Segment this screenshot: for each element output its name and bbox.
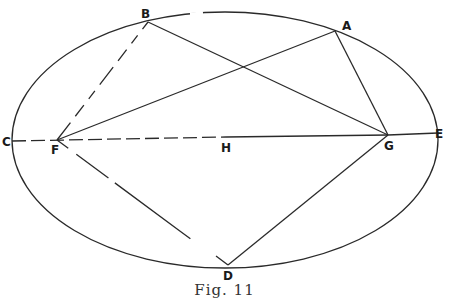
segment-c-g xyxy=(12,137,226,141)
label-f: F xyxy=(51,143,59,157)
segment-f-d xyxy=(57,140,192,240)
segment-b-g xyxy=(148,22,388,135)
figure-caption: Fig. 11 xyxy=(0,281,449,299)
segment-f-a xyxy=(57,31,335,140)
label-e: E xyxy=(435,127,443,141)
ellipse-gap xyxy=(190,13,203,14)
label-b: B xyxy=(141,7,150,21)
segment-a-g xyxy=(335,31,388,135)
segment-g-e xyxy=(388,133,438,135)
segment-g-d xyxy=(228,135,388,265)
label-c: C xyxy=(2,135,11,149)
label-a: A xyxy=(342,19,352,33)
segment-d-tick xyxy=(216,256,228,265)
label-g: G xyxy=(384,139,394,153)
label-h: H xyxy=(221,141,231,155)
segment-h-g xyxy=(226,135,388,137)
